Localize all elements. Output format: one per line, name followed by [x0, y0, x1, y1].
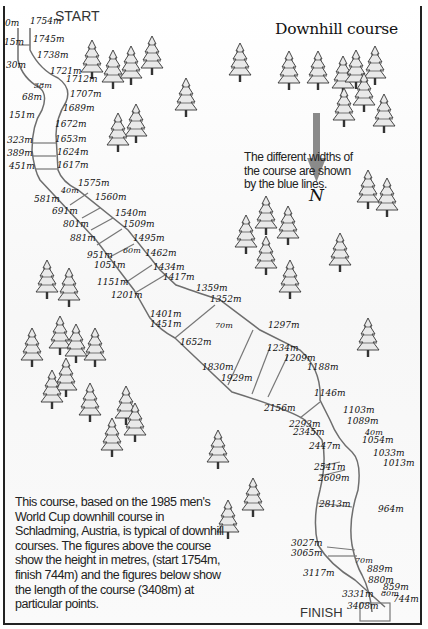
height-label: 1624m [57, 147, 88, 157]
length-label: 2345m [292, 427, 324, 437]
length-label: 1652m [180, 337, 211, 347]
length-label: 2541m [313, 462, 345, 472]
length-label: 151m [9, 110, 35, 120]
length-label: 3027m [291, 538, 322, 548]
length-label: 30m [6, 60, 26, 70]
length-label: 2609m [317, 473, 349, 483]
height-label: 1653m [55, 134, 86, 144]
length-label: 1151m [97, 277, 128, 287]
length-label: 0m [5, 18, 19, 28]
height-label: 1013m [383, 458, 414, 468]
width-label: 40m [60, 186, 79, 195]
length-label: 68m [22, 92, 42, 102]
height-label: 1103m [343, 405, 374, 415]
length-label: 3065m [291, 548, 322, 558]
length-label: 15m [4, 37, 24, 47]
height-label: 1712m [66, 74, 97, 84]
height-label: 1672m [55, 119, 86, 129]
length-label: 951m [87, 250, 113, 260]
height-label: 1495m [133, 233, 164, 243]
page-title: Downhill course [275, 20, 398, 38]
height-label: 1033m [373, 448, 404, 458]
height-label: 1745m [33, 34, 64, 44]
height-label: 1359m [196, 283, 227, 293]
height-label: 1462m [145, 248, 176, 258]
course-description: This course, based on the 1985 men's Wor… [15, 495, 230, 612]
length-label: 2447m [308, 441, 340, 451]
height-label: 1575m [78, 178, 109, 188]
height-label: 1234m [267, 343, 298, 353]
finish-label: FINISH [300, 605, 343, 620]
height-label: 1738m [37, 50, 68, 60]
height-label: 1540m [115, 208, 146, 218]
length-label: 1929m [221, 373, 252, 383]
length-label: 1830m [202, 362, 233, 372]
height-label: 1560m [95, 192, 126, 202]
length-label: 451m [8, 161, 35, 171]
height-label: 1509m [123, 219, 154, 229]
width-label: 70m [215, 321, 233, 330]
height-label: 964m [378, 504, 404, 514]
length-label: 3117m [303, 568, 334, 578]
length-label: 801m [63, 219, 89, 229]
height-label: 1417m [163, 272, 194, 282]
width-label: 40m [364, 428, 383, 437]
length-label: 1201m [111, 290, 142, 300]
height-label: 1617m [57, 160, 88, 170]
height-label: 1146m [314, 388, 345, 398]
height-label: 1434m [153, 262, 184, 272]
length-label: 2156m [263, 403, 295, 413]
length-label: 3408m [347, 601, 378, 611]
length-label: 1451m [150, 319, 181, 329]
width-label: 38m [34, 81, 52, 90]
length-label: 1401m [150, 309, 181, 319]
length-label: 581m [34, 194, 60, 204]
length-label: 2813m [318, 499, 350, 509]
length-label: 691m [52, 206, 78, 216]
length-label: 389m [7, 148, 33, 158]
height-label: 1707m [70, 89, 101, 99]
height-label: 1689m [63, 103, 94, 113]
length-label: 3331m [342, 589, 373, 599]
height-label: 889m [367, 564, 393, 574]
length-label: 323m [7, 135, 33, 145]
height-label: 1352m [210, 294, 241, 304]
width-note: The different widths of the course are s… [244, 151, 354, 192]
height-label: 1297m [268, 320, 299, 330]
width-label: 80m [381, 589, 399, 598]
height-label: 1089m [347, 416, 378, 426]
height-label: 1188m [307, 362, 338, 372]
start-label: START [55, 8, 100, 24]
length-label: 881m [70, 233, 96, 243]
width-label: 60m [123, 246, 141, 255]
width-label: 70m [355, 556, 373, 565]
length-label: 1051m [94, 260, 125, 270]
